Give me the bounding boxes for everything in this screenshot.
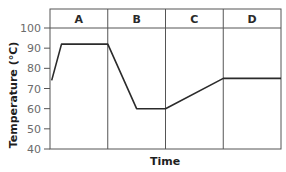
y-tick-label: 60 [27,103,41,116]
y-tick-label: 50 [27,123,41,136]
y-tick-label: 80 [27,62,41,75]
phase-label-c: C [190,13,198,26]
x-axis-title: Time [150,155,180,168]
phase-label-b: B [132,13,140,26]
y-tick-label: 70 [27,83,41,96]
temperature-time-chart: 405060708090100 ABCD Time Temperature (°… [0,0,286,172]
temperature-line [52,44,281,109]
y-tick-label: 90 [27,42,41,55]
y-tick-label: 100 [20,22,41,35]
y-axis-title: Temperature (°C) [7,42,20,149]
phase-label-a: A [75,13,84,26]
y-tick-label: 40 [27,143,41,156]
phase-label-d: D [248,13,257,26]
y-axis-ticks: 405060708090100 [20,22,50,156]
